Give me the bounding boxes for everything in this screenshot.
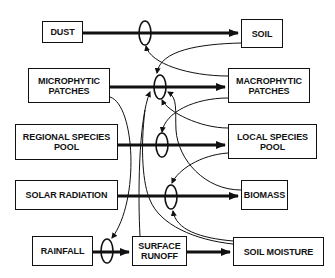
- node-biomass: BIOMASS: [241, 180, 288, 210]
- node-microphytic-patches: MICROPHYTIC PATCHES: [28, 68, 110, 103]
- node-surface-runoff: SURFACE RUNOFF: [132, 236, 187, 266]
- link-moisture-loop: [143, 110, 233, 244]
- node-local-species-pool: LOCAL SPECIES POOL: [228, 124, 317, 159]
- node-dust: DUST: [42, 21, 83, 43]
- node-soil-moisture: SOIL MOISTURE: [233, 237, 324, 266]
- ecosystem-diagram: DUST SOIL MICROPHYTIC PATCHES MACROPHYTI…: [0, 0, 335, 278]
- node-macrophytic-patches: MACROPHYTIC PATCHES: [228, 68, 310, 103]
- node-solar-radiation: SOLAR RADIATION: [15, 180, 118, 210]
- link-macrophytic-dustvalve: [146, 46, 228, 76]
- link-macrophytic-regionalvalve: [162, 98, 228, 132]
- node-soil: SOIL: [241, 19, 283, 48]
- node-regional-species-pool: REGIONAL SPECIES POOL: [15, 124, 118, 160]
- link-microphytic-rainfallvalve: [110, 97, 131, 238]
- link-local-solarvalve: [172, 153, 228, 183]
- node-rainfall: RAINFALL: [32, 236, 93, 266]
- link-local-microvalve: [162, 100, 228, 128]
